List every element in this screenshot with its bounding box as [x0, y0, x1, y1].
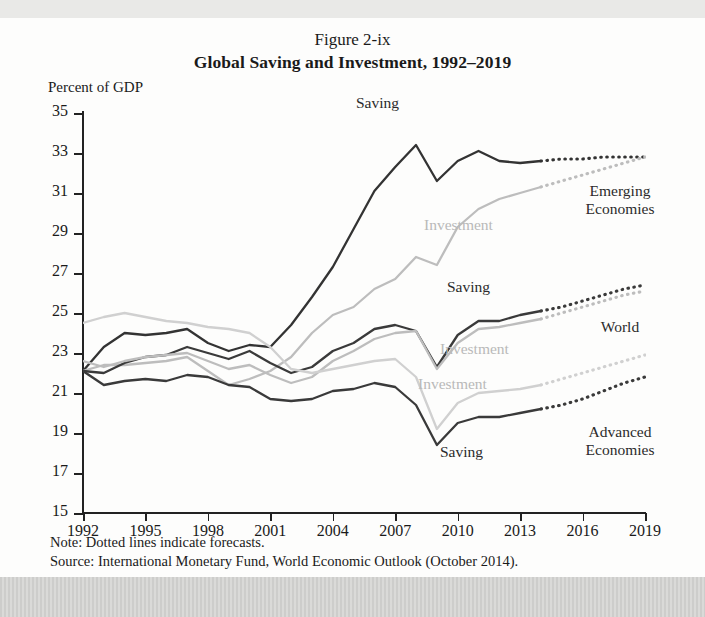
x-tick [458, 513, 460, 521]
y-tick [74, 153, 83, 155]
y-tick-label: 33 [28, 142, 68, 160]
x-tick [583, 513, 585, 521]
series-line [541, 285, 645, 311]
y-tick [74, 473, 83, 475]
group-label-world-text: World [601, 318, 639, 335]
figure-number: Figure 2-ix [0, 30, 705, 50]
y-tick-label: 29 [28, 222, 68, 240]
y-tick-label: 23 [28, 342, 68, 360]
y-tick [74, 233, 83, 235]
x-tick-label: 2019 [615, 522, 675, 540]
figure-note: Note: Dotted lines indicate forecasts. [50, 534, 265, 551]
group-label-world: World [560, 318, 680, 336]
label-emerging-investment: Investment [424, 216, 493, 234]
group-label-advanced-line1: Advanced [589, 423, 652, 440]
y-tick-label: 25 [28, 302, 68, 320]
x-tick [208, 513, 210, 521]
y-tick-label: 19 [28, 422, 68, 440]
series-line [541, 291, 645, 319]
label-advanced-investment: Investment [418, 375, 487, 393]
y-tick-label: 15 [28, 502, 68, 520]
group-label-advanced-line2: Economies [586, 441, 655, 458]
y-tick-label: 21 [28, 382, 68, 400]
x-tick [395, 513, 397, 521]
y-tick [74, 273, 83, 275]
x-tick-label: 2010 [428, 522, 488, 540]
label-world-investment: Investment [440, 340, 509, 358]
series-line [541, 355, 645, 385]
page-scan-band-bottom [0, 577, 705, 617]
group-label-emerging-line2: Economies [586, 200, 655, 217]
y-tick [74, 313, 83, 315]
figure-source: Source: International Monetary Fund, Wor… [50, 553, 518, 570]
group-label-advanced: Advanced Economies [555, 423, 685, 460]
x-tick [520, 513, 522, 521]
y-tick-label: 35 [28, 102, 68, 120]
y-tick [74, 433, 83, 435]
series-line [83, 145, 541, 371]
x-tick [333, 513, 335, 521]
label-advanced-saving: Saving [440, 443, 483, 461]
label-emerging-saving: Saving [356, 94, 399, 112]
y-tick [74, 353, 83, 355]
group-label-emerging-line1: Emerging [590, 182, 651, 199]
figure-title: Global Saving and Investment, 1992–2019 [0, 52, 705, 73]
y-axis-label: Percent of GDP [48, 79, 143, 96]
label-world-saving: Saving [447, 278, 490, 296]
y-tick-label: 31 [28, 182, 68, 200]
y-tick [74, 113, 83, 115]
x-tick-label: 2013 [490, 522, 550, 540]
x-tick [145, 513, 147, 521]
x-tick [270, 513, 272, 521]
y-tick-label: 17 [28, 462, 68, 480]
y-tick [74, 193, 83, 195]
series-line [83, 313, 541, 429]
y-tick-label: 27 [28, 262, 68, 280]
x-tick-label: 2016 [553, 522, 613, 540]
x-tick [83, 513, 85, 521]
y-tick [74, 513, 83, 515]
x-tick-label: 2007 [365, 522, 425, 540]
group-label-emerging: Emerging Economies [560, 182, 680, 219]
series-line [541, 157, 645, 161]
y-tick [74, 393, 83, 395]
x-tick [645, 513, 647, 521]
series-line [541, 377, 645, 409]
x-tick-label: 2004 [303, 522, 363, 540]
page-scan-band-top [0, 0, 705, 18]
